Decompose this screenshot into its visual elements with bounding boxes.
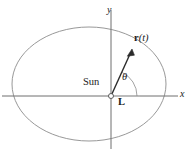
orbit-figure: x y Sun θ L r(t): [0, 0, 194, 158]
angular-momentum-label: L: [118, 97, 125, 108]
y-axis-label: y: [107, 5, 111, 15]
position-vector-arrowhead: [127, 49, 134, 56]
x-axis-label: x: [180, 89, 184, 99]
sun-focus-marker: [109, 94, 114, 99]
theta-angle-label: θ: [122, 72, 127, 83]
position-vector-label: r(t): [134, 33, 149, 44]
position-vector-argument: (t): [139, 32, 149, 43]
sun-label: Sun: [83, 77, 99, 88]
